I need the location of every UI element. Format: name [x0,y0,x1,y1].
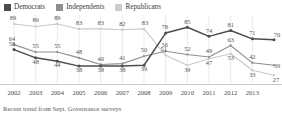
data-point [13,48,16,51]
data-label: 33 [249,71,255,78]
x-axis-tick-2008: 2008 [137,88,150,97]
plot-area: 8986898383828351394753332764555548404150… [0,13,282,85]
x-axis-tick-2007: 2007 [116,88,129,97]
data-label: 39 [274,62,280,69]
data-labels: 8986898383828351394753332764555548404150… [9,14,280,83]
data-label: 81 [227,21,233,28]
data-point [35,51,37,53]
legend-item-independents: Independents [56,4,104,11]
x-axis-labels: 2002200320042005200620072008200920102011… [0,88,282,99]
data-label: 53 [227,54,233,61]
legend-swatch-independents [56,4,63,11]
data-label: 83 [142,19,148,26]
x-axis-tick-2002: 2002 [7,88,20,97]
data-point [230,44,232,46]
data-label: 41 [119,54,125,61]
data-label: 71 [249,29,255,36]
data-label: 78 [161,23,167,30]
x-axis-tick-2009: 2009 [159,88,172,97]
data-point [121,29,123,31]
data-label: 39 [141,65,147,72]
data-label: 58 [9,40,15,47]
data-point [208,35,211,38]
data-label: 55 [54,42,60,49]
data-label: 56 [161,41,167,48]
data-label: 74 [206,27,213,34]
data-point [35,25,37,27]
data-point [143,28,145,30]
data-label: 27 [273,76,280,83]
data-label: 39 [184,66,190,73]
data-label: 50 [141,46,147,53]
x-axis-tick-2005: 2005 [72,88,85,97]
line-chart-svg: 8986898383828351394753332764555548404150… [0,13,282,85]
data-label: 40 [97,55,103,62]
data-label: 38 [119,66,125,73]
legend-label-independents: Independents [66,4,104,11]
data-point [165,54,167,56]
data-point [186,26,189,29]
data-label: 44 [54,61,61,68]
data-label: 48 [32,58,38,65]
data-label: 55 [32,42,38,49]
legend-label-democrats: Democrats [14,4,45,11]
x-axis-tick-2010: 2010 [181,88,194,97]
data-label: 86 [32,16,38,23]
data-label: 89 [54,14,60,21]
data-label: 49 [206,47,212,54]
data-point [143,55,145,57]
legend-item-democrats: Democrats [4,4,45,11]
data-label: 38 [76,66,82,73]
chart-root: Democrats Independents Republicans 89868… [0,0,282,120]
x-axis-tick-2004: 2004 [51,88,64,97]
data-label: 82 [119,20,125,27]
data-label: 83 [76,19,82,26]
data-point [164,32,167,35]
x-axis-tick-2012: 2012 [224,88,237,97]
data-label: 52 [184,45,190,52]
data-point [186,53,188,55]
data-point [121,62,123,64]
data-point [273,38,276,41]
legend-label-republicans: Republicans [125,4,161,11]
data-label: 38 [97,66,103,73]
data-point [251,62,253,64]
legend-item-republicans: Republicans [115,4,161,11]
data-label: 48 [76,48,82,55]
data-label: 47 [206,59,213,66]
data-point [229,29,232,32]
x-axis-tick-2011: 2011 [203,88,216,97]
x-axis-tick-2013: 2013 [246,88,259,97]
x-axis-tick-2006: 2006 [94,88,107,97]
data-point [13,23,15,25]
chart-legend: Democrats Independents Republicans [4,2,161,13]
data-point [208,56,210,58]
data-label: 42 [249,53,255,60]
chart-footnote: Recent trend from Sept. Governance surve… [3,104,121,113]
data-label: 63 [227,36,233,43]
legend-swatch-democrats [4,4,11,11]
data-label: 89 [10,14,16,21]
data-point [56,51,58,53]
data-point [78,28,80,30]
data-point [56,23,58,25]
data-label: 83 [97,19,103,26]
data-label: 70 [274,31,280,38]
data-point [251,37,254,40]
legend-swatch-republicans [115,4,122,11]
data-point [78,57,80,59]
data-label: 85 [184,18,190,25]
data-point [100,28,102,30]
x-axis-tick-2003: 2003 [29,88,42,97]
